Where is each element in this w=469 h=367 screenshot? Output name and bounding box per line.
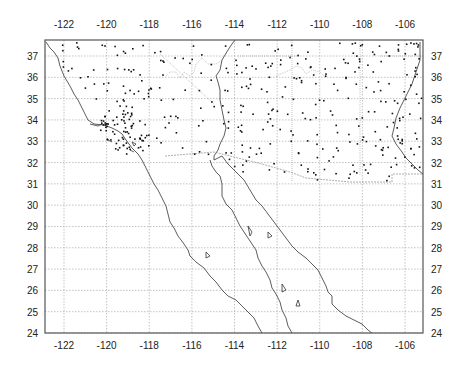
x-tick-label-bottom: -108 [352, 340, 372, 351]
y-tick-label-left: 35 [27, 94, 39, 105]
x-tick-label-bottom: -116 [182, 340, 202, 351]
x-tick-label-top: -122 [54, 19, 74, 30]
station-points [62, 42, 423, 181]
x-tick-label-top: -120 [97, 19, 117, 30]
x-tick-label-bottom: -122 [54, 340, 74, 351]
y-tick-label-right: 25 [431, 307, 443, 318]
x-tick-label-bottom: -118 [140, 340, 160, 351]
y-tick-label-left: 24 [27, 328, 39, 339]
station-map: -122-120-118-116-114-112-110-108-106-122… [0, 0, 469, 367]
y-tick-label-right: 32 [431, 158, 443, 169]
y-tick-label-left: 32 [27, 158, 39, 169]
x-tick-label-top: -114 [225, 19, 245, 30]
y-tick-label-left: 30 [27, 200, 39, 211]
x-tick-label-top: -108 [352, 19, 372, 30]
y-tick-label-right: 37 [431, 51, 443, 62]
y-tick-label-left: 28 [27, 243, 39, 254]
x-tick-label-top: -118 [140, 19, 160, 30]
y-tick-label-left: 26 [27, 285, 39, 296]
y-tick-label-left: 29 [27, 221, 39, 232]
y-tick-label-left: 37 [27, 51, 39, 62]
y-tick-label-right: 28 [431, 243, 443, 254]
y-tick-label-left: 34 [27, 115, 39, 126]
x-tick-label-top: -110 [310, 19, 330, 30]
y-tick-label-right: 35 [431, 94, 443, 105]
boundaries [160, 40, 423, 182]
y-tick-label-right: 30 [431, 200, 443, 211]
x-tick-label-top: -106 [395, 19, 415, 30]
x-tick-label-bottom: -114 [225, 340, 245, 351]
y-tick-label-left: 27 [27, 264, 39, 275]
grid-lines [45, 40, 423, 333]
x-tick-label-bottom: -106 [395, 340, 415, 351]
y-tick-label-right: 29 [431, 221, 443, 232]
y-tick-label-right: 33 [431, 136, 443, 147]
y-tick-label-left: 33 [27, 136, 39, 147]
y-tick-label-right: 26 [431, 285, 443, 296]
y-tick-label-left: 31 [27, 179, 39, 190]
y-tick-label-left: 25 [27, 307, 39, 318]
y-tick-label-right: 31 [431, 179, 443, 190]
y-tick-label-right: 36 [431, 72, 443, 83]
y-tick-label-right: 27 [431, 264, 443, 275]
x-tick-label-bottom: -110 [310, 340, 330, 351]
x-tick-label-top: -112 [267, 19, 287, 30]
y-tick-label-right: 24 [431, 328, 443, 339]
y-tick-label-right: 34 [431, 115, 443, 126]
x-tick-label-bottom: -120 [97, 340, 117, 351]
x-tick-label-bottom: -112 [267, 340, 287, 351]
y-tick-label-left: 36 [27, 72, 39, 83]
x-tick-label-top: -116 [182, 19, 202, 30]
plot-frame [45, 40, 423, 333]
